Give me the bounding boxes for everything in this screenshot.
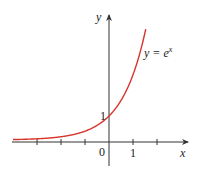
x-axis-label: x xyxy=(179,146,186,160)
y-one-label: 1 xyxy=(100,109,106,123)
origin-label: 0 xyxy=(99,145,105,159)
chart-canvas: y x 0 1 1 y = ex xyxy=(0,0,201,175)
x-one-label: 1 xyxy=(130,146,136,160)
curve-label: y = ex xyxy=(143,45,173,60)
exp-curve xyxy=(13,29,146,139)
exponential-graph: y x 0 1 1 y = ex xyxy=(0,0,201,175)
y-axis-label: y xyxy=(95,10,102,24)
